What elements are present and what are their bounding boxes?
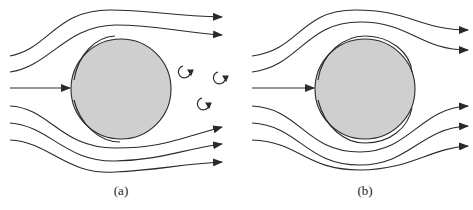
- panel-b: [252, 10, 468, 170]
- flow-diagram: [0, 0, 473, 210]
- vortex-icon: [213, 72, 225, 84]
- panel-a: [10, 10, 228, 172]
- panel-b-label: (b): [345, 183, 385, 199]
- cylinder-b: [315, 39, 415, 139]
- vortex-icon: [178, 66, 190, 78]
- panel-a-label: (a): [101, 183, 141, 199]
